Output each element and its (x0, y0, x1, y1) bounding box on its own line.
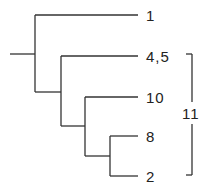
leaf-label: 8 (146, 129, 155, 144)
leaf-label: 2 (146, 169, 155, 184)
leaf-label: 10 (146, 90, 165, 105)
leaf-label: 4,5 (146, 49, 170, 64)
leaf-label: 1 (146, 8, 155, 23)
dendrogram-lines (0, 0, 206, 188)
bracket-label: 11 (182, 106, 200, 121)
